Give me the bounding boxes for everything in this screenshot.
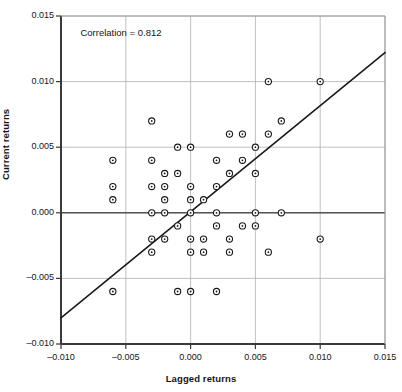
y-tick-label: 0.010 bbox=[8, 76, 54, 86]
data-point bbox=[188, 249, 194, 255]
data-point bbox=[200, 249, 206, 255]
data-point bbox=[200, 236, 206, 242]
data-point bbox=[278, 210, 284, 216]
data-point bbox=[188, 197, 194, 203]
data-point bbox=[200, 197, 206, 203]
x-tick-label: 0.010 bbox=[290, 352, 350, 362]
plot-frame bbox=[61, 16, 385, 344]
y-tick-label: –0.010 bbox=[8, 338, 54, 348]
data-point bbox=[175, 223, 181, 229]
data-point bbox=[162, 170, 168, 176]
data-point bbox=[226, 249, 232, 255]
data-point bbox=[265, 79, 271, 85]
data-point bbox=[110, 183, 116, 189]
data-point bbox=[149, 236, 155, 242]
data-point bbox=[317, 236, 323, 242]
data-point bbox=[265, 249, 271, 255]
data-point bbox=[175, 288, 181, 294]
data-point bbox=[226, 170, 232, 176]
data-point bbox=[226, 236, 232, 242]
data-point bbox=[149, 249, 155, 255]
data-point-series bbox=[110, 79, 324, 295]
tick-marks bbox=[56, 16, 385, 349]
data-point bbox=[213, 288, 219, 294]
data-point bbox=[317, 79, 323, 85]
data-point bbox=[188, 236, 194, 242]
x-tick-label: –0.005 bbox=[96, 352, 156, 362]
y-tick-label: 0.005 bbox=[8, 141, 54, 151]
data-point bbox=[149, 210, 155, 216]
plot-canvas bbox=[0, 0, 402, 392]
x-tick-label: –0.010 bbox=[31, 352, 91, 362]
data-point bbox=[265, 131, 271, 137]
data-point bbox=[149, 118, 155, 124]
data-point bbox=[188, 144, 194, 150]
data-point bbox=[239, 223, 245, 229]
data-point bbox=[188, 210, 194, 216]
data-point bbox=[110, 288, 116, 294]
data-point bbox=[162, 183, 168, 189]
data-point bbox=[188, 183, 194, 189]
x-axis-title: Lagged returns bbox=[0, 373, 402, 384]
data-point bbox=[149, 157, 155, 163]
y-tick-label: 0.000 bbox=[8, 207, 54, 217]
scatter-plot-figure: 0.0150.0100.0050.000–0.005–0.010–0.010–0… bbox=[0, 0, 402, 392]
data-point bbox=[252, 223, 258, 229]
gridlines bbox=[61, 16, 385, 344]
data-point bbox=[175, 144, 181, 150]
y-tick-label: –0.005 bbox=[8, 272, 54, 282]
data-point bbox=[252, 170, 258, 176]
data-point bbox=[162, 236, 168, 242]
data-point bbox=[110, 197, 116, 203]
data-point bbox=[162, 210, 168, 216]
data-point bbox=[213, 210, 219, 216]
data-point bbox=[213, 183, 219, 189]
data-point bbox=[252, 210, 258, 216]
y-axis-title: Current returns bbox=[0, 109, 11, 180]
data-point bbox=[278, 118, 284, 124]
data-point bbox=[239, 131, 245, 137]
data-point bbox=[213, 223, 219, 229]
data-point bbox=[110, 157, 116, 163]
data-point bbox=[226, 131, 232, 137]
correlation-annotation: Correlation = 0.812 bbox=[80, 27, 161, 38]
x-tick-label: 0.015 bbox=[355, 352, 402, 362]
data-point bbox=[188, 288, 194, 294]
y-tick-label: 0.015 bbox=[8, 10, 54, 20]
data-point bbox=[162, 197, 168, 203]
data-point bbox=[149, 183, 155, 189]
x-tick-label: 0.000 bbox=[161, 352, 221, 362]
data-point bbox=[213, 157, 219, 163]
x-tick-label: 0.005 bbox=[225, 352, 285, 362]
data-point bbox=[175, 170, 181, 176]
data-point bbox=[239, 157, 245, 163]
data-point bbox=[252, 144, 258, 150]
